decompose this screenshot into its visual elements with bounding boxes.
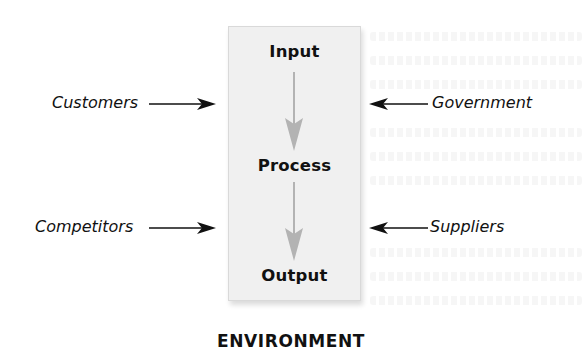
show-through-line: [370, 248, 582, 257]
show-through-line: [370, 296, 582, 305]
arrow-left-icon: [368, 221, 428, 235]
flow-arrow-down-icon: [284, 182, 304, 262]
influence-label-government: Government: [432, 93, 532, 112]
show-through-line: [370, 32, 582, 41]
arrow-right-icon: [149, 97, 217, 111]
stage-input: Input: [229, 42, 360, 61]
arrow-left-icon: [368, 97, 428, 111]
show-through-line: [370, 176, 582, 185]
influence-label-customers: Customers: [52, 93, 138, 112]
flow-arrow-down-icon: [284, 72, 304, 152]
stage-output: Output: [229, 266, 360, 285]
influence-label-competitors: Competitors: [35, 217, 133, 236]
show-through-line: [370, 272, 582, 281]
show-through-line: [370, 128, 582, 137]
show-through-line: [370, 152, 582, 161]
influence-label-suppliers: Suppliers: [430, 217, 504, 236]
show-through-line: [370, 80, 582, 89]
environment-title: ENVIRONMENT: [0, 331, 582, 351]
show-through-line: [370, 56, 582, 65]
page-show-through-background: [360, 12, 582, 312]
stage-process: Process: [229, 156, 360, 175]
system-box: Input Process Output: [228, 26, 361, 301]
arrow-right-icon: [149, 221, 217, 235]
